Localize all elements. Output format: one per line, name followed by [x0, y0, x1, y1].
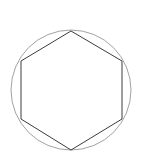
- figure-canvas: [0, 0, 143, 161]
- geometry-figure: [0, 0, 143, 161]
